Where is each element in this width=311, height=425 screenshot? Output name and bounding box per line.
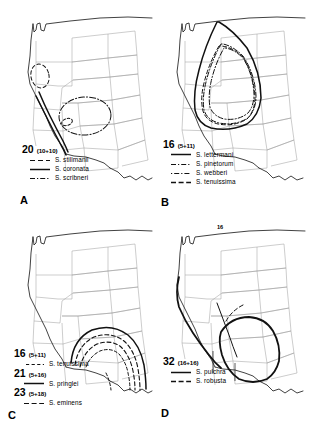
species-name: S. stillmanii	[55, 157, 89, 163]
panel-c: 16 (5+11) S. tenuissima 21 (5+16) S. pri…	[0, 213, 155, 425]
species-name: S. eminens	[49, 400, 82, 406]
chromosome-count-b: 16 (5+11)	[163, 139, 288, 150]
species-name: S. pringlei	[49, 381, 79, 387]
count-paren-b: (5+11)	[178, 143, 195, 149]
legend-item: S. pinetorum	[170, 161, 288, 168]
chromosome-count-a: 20 (10+10)	[22, 144, 147, 155]
map-d	[155, 213, 310, 425]
line-dotdash-icon	[170, 170, 192, 177]
count-number-c-3: 23	[14, 387, 26, 398]
legend-item: S. coronata	[29, 166, 147, 173]
panel-a: 20 (10+10) S. stillmanii S. coronata S.	[0, 0, 155, 212]
panel-letter-d: D	[161, 408, 169, 419]
count-paren-a: (10+10)	[37, 148, 58, 154]
chromosome-count-c-3: 23 (5+18)	[14, 387, 139, 398]
count-number-c-1: 16	[14, 348, 26, 359]
legend-b: 16 (5+11) S. lettermani S. pinetorum S.	[163, 139, 288, 186]
panel-letter-b: B	[161, 197, 169, 208]
legend-item: S. robusta	[170, 378, 288, 385]
species-name: S. webberi	[196, 170, 227, 176]
chromosome-count-c-2: 21 (5+16)	[14, 368, 139, 379]
legend-c: 16 (5+11) S. tenuissima 21 (5+16) S. pri…	[14, 348, 139, 407]
legend-item: S. webberi	[170, 170, 288, 177]
legend-item: S. pringlei	[23, 380, 139, 387]
panel-letter-a: A	[20, 195, 28, 206]
panel-d: 16 32 (16+16) S. pulchra S. robusta D	[155, 213, 310, 425]
line-solid-icon	[170, 151, 192, 158]
legend-item: S. tenuissima	[23, 361, 139, 368]
line-dashed-icon	[29, 157, 51, 164]
legend-item: S. pulchra	[170, 369, 288, 376]
chromosome-count-c-1: 16 (5+11)	[14, 348, 139, 359]
line-solid-icon	[23, 380, 45, 387]
line-dashed-icon	[170, 179, 192, 186]
legend-item: S. tenuissima	[170, 179, 288, 186]
line-dashed-icon	[170, 378, 192, 385]
line-solid-icon	[170, 369, 192, 376]
count-paren-c-2: (5+16)	[29, 372, 46, 378]
count-number-a: 20	[22, 144, 34, 155]
count-paren-d: (16+16)	[178, 360, 199, 366]
chromosome-count-d: 32 (16+16)	[163, 356, 288, 367]
species-name: S. coronata	[55, 166, 89, 172]
species-name: S. robusta	[196, 378, 226, 384]
count-number-c-2: 21	[14, 368, 26, 379]
species-name: S. pulchra	[196, 369, 226, 375]
legend-item: S. stillmanii	[29, 157, 147, 164]
species-name: S. pinetorum	[196, 161, 233, 167]
line-dashdot-icon	[29, 175, 51, 182]
count-number-d: 32	[163, 356, 175, 367]
line-dashdot-icon	[170, 161, 192, 168]
legend-item: S. scribneri	[29, 175, 147, 182]
legend-a: 20 (10+10) S. stillmanii S. coronata S.	[22, 144, 147, 182]
count-paren-c-1: (5+11)	[29, 352, 46, 358]
line-dashed-icon	[23, 361, 45, 368]
legend-d: 32 (16+16) S. pulchra S. robusta	[163, 356, 288, 385]
species-name: S. tenuissima	[49, 361, 89, 367]
panel-b: 16 (5+11) S. lettermani S. pinetorum S.	[155, 0, 310, 212]
legend-item: S. lettermani	[170, 151, 288, 158]
count-paren-c-3: (5+18)	[29, 391, 46, 397]
species-name: S. scribneri	[55, 175, 88, 181]
map-annotation-d: 16	[217, 225, 223, 231]
panel-letter-c: C	[8, 410, 16, 421]
count-number-b: 16	[163, 139, 175, 150]
line-solid-icon	[29, 166, 51, 173]
legend-item: S. eminens	[23, 400, 139, 407]
distribution-map-figure: 20 (10+10) S. stillmanii S. coronata S.	[0, 0, 311, 425]
line-dashed-icon	[23, 400, 45, 407]
species-name: S. tenuissima	[196, 179, 236, 185]
species-name: S. lettermani	[196, 152, 233, 158]
